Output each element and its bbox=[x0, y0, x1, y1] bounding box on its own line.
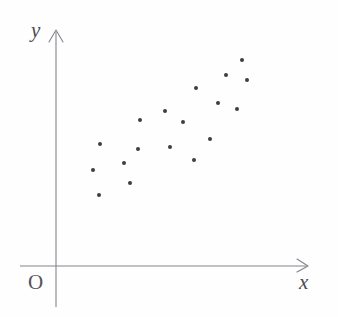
data-point bbox=[136, 147, 140, 151]
data-point bbox=[240, 58, 244, 62]
data-point bbox=[163, 109, 167, 113]
data-point bbox=[181, 120, 185, 124]
data-point bbox=[224, 73, 228, 77]
data-point bbox=[168, 145, 172, 149]
data-point bbox=[192, 158, 196, 162]
data-point bbox=[194, 86, 198, 90]
origin-label: O bbox=[28, 272, 43, 293]
data-point bbox=[208, 137, 212, 141]
scatter-plot-figure: y x O bbox=[0, 0, 338, 317]
data-point bbox=[91, 168, 95, 172]
data-point bbox=[245, 78, 249, 82]
data-point bbox=[98, 142, 102, 146]
plot-canvas bbox=[0, 0, 338, 317]
data-points-group bbox=[91, 58, 249, 197]
data-point bbox=[235, 107, 239, 111]
data-point bbox=[216, 101, 220, 105]
data-point bbox=[128, 181, 132, 185]
data-point bbox=[122, 161, 126, 165]
data-point bbox=[138, 118, 142, 122]
y-axis-label: y bbox=[31, 20, 40, 41]
x-axis-label: x bbox=[299, 272, 308, 293]
data-point bbox=[97, 193, 101, 197]
